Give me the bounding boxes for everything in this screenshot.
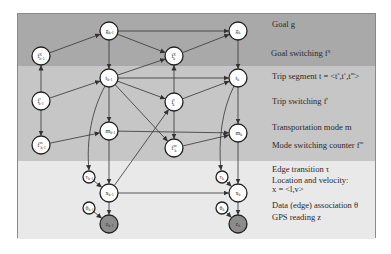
legend-transportation-mode: Transportation mode m bbox=[272, 123, 352, 132]
node-x_k: xk bbox=[229, 184, 247, 202]
node-fg_km1: fgk-1 bbox=[32, 47, 50, 65]
edge-theta_k-to-z_k bbox=[226, 212, 231, 217]
node-g_k: gk bbox=[229, 22, 247, 40]
edge-fm_km1-to-m_km1 bbox=[50, 133, 100, 143]
edge-m_km1-to-m_k bbox=[118, 131, 229, 133]
node-m_km1: mk-1 bbox=[100, 122, 118, 140]
legend-mode-switching: Mode switching counter fm bbox=[272, 138, 363, 150]
node-g_km1: gk-1 bbox=[100, 22, 118, 40]
legend-gps-reading: GPS reading z bbox=[272, 213, 321, 222]
legend-data-association: Data (edge) association θ bbox=[272, 201, 358, 210]
edge-t_km1-to-ft_k bbox=[117, 81, 165, 99]
legend-goal: Goal g bbox=[272, 20, 295, 29]
node-x_km1: xk-1 bbox=[100, 184, 118, 202]
edge-ft_km1-to-t_km1 bbox=[50, 81, 100, 98]
legend-trip-switching: Trip switching ft bbox=[272, 94, 328, 106]
legend-goal-switching: Goal switching fg bbox=[271, 46, 330, 58]
edge-x_km1-to-ft_k bbox=[114, 110, 168, 186]
legend-edge-transition: Edge transition τ bbox=[272, 165, 329, 174]
edge-tau_km1-to-x_km1 bbox=[94, 181, 102, 187]
node-ft_km1: ftk-1 bbox=[32, 92, 50, 110]
node-t_k: tk bbox=[229, 69, 247, 87]
edge-tau_k-to-x_k bbox=[226, 181, 231, 186]
node-theta_k: θk bbox=[216, 202, 228, 214]
edge-t_km1-to-fg_k bbox=[118, 59, 165, 75]
edges bbox=[41, 31, 238, 218]
edge-t_km1-to-fm_k bbox=[115, 85, 167, 141]
edge-fg_km1-to-g_km1 bbox=[49, 34, 100, 53]
legend-trip-segment: Trip segment t = <ts,te,tm> bbox=[272, 69, 359, 81]
edge-fm_k-to-m_k bbox=[183, 135, 229, 146]
node-theta_km1: θk-1 bbox=[83, 202, 95, 214]
node-t_km1: tk-1 bbox=[100, 69, 118, 87]
node-fm_km1: fmk-1 bbox=[32, 136, 50, 154]
legend-location-velocity-formula: x = <l,v> bbox=[272, 185, 304, 194]
edge-g_km1-to-fg_k bbox=[117, 34, 165, 52]
nodes: gk-1gkfgk-1fgktk-1tkftk-1ftkmk-1mkfmk-1f… bbox=[32, 22, 247, 233]
node-ft_k: ftk bbox=[165, 93, 183, 111]
node-fm_k: fmk bbox=[165, 139, 183, 157]
node-z_k: zk bbox=[229, 215, 247, 233]
node-tau_km1: τk-1 bbox=[83, 171, 95, 183]
node-z_km1: zk-1 bbox=[100, 215, 118, 233]
edge-ft_k-to-t_k bbox=[182, 81, 229, 99]
edge-fg_k-to-g_k bbox=[182, 34, 229, 52]
node-tau_k: τk bbox=[216, 171, 228, 183]
edge-theta_km1-to-z_km1 bbox=[94, 212, 102, 218]
node-fg_k: fgk bbox=[165, 47, 183, 65]
node-m_k: mk bbox=[229, 124, 247, 142]
